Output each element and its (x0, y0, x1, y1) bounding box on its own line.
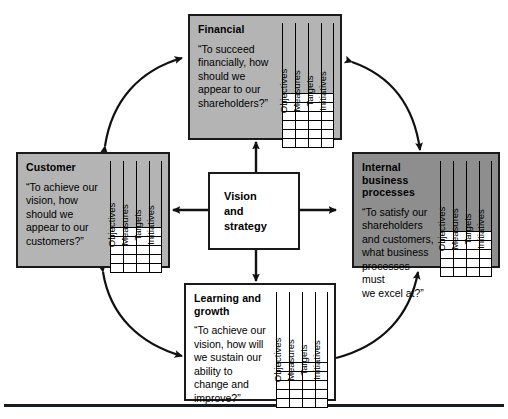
grid-cell[interactable] (283, 112, 295, 121)
grid-column-header-label: Objectives (278, 69, 289, 113)
grid-column-header-initiatives: Initiatives (316, 292, 327, 363)
grid-cell[interactable] (277, 390, 289, 399)
internal-processes-question: “To satisfy our shareholders and custome… (362, 206, 434, 301)
financial-text-column: Financial “To succeed financially, how s… (198, 23, 276, 132)
vision-and-strategy-box: Vision and strategy (208, 172, 300, 250)
learning-growth-text-column: Learning and growth “To achieve our visi… (194, 292, 270, 393)
grid-cell[interactable] (277, 399, 289, 408)
grid-cell[interactable] (309, 139, 321, 148)
grid-cell[interactable] (283, 121, 295, 130)
financial-question: “To succeed financially, how should we a… (198, 43, 276, 111)
grid-column-header-label: Measures (285, 339, 296, 381)
grid-cell[interactable] (322, 139, 333, 148)
grid-column-header-initiatives: Initiatives (480, 161, 491, 232)
grid-column-header-label: Measures (291, 70, 302, 112)
grid-column-header-label: Targets (298, 344, 309, 375)
grid-cell[interactable] (150, 264, 161, 273)
grid-cell[interactable] (309, 112, 321, 121)
arc-financial-internal-processes (352, 62, 420, 150)
customer-text-column: Customer “To achieve our vision, how sho… (26, 161, 104, 260)
perspective-box-learning-and-growth: Learning and growth “To achieve our visi… (184, 283, 336, 401)
customer-title: Customer (26, 161, 104, 174)
grid-cell[interactable] (303, 399, 315, 408)
grid-cell[interactable] (283, 139, 295, 148)
grid-cell[interactable] (316, 381, 327, 390)
grid-cell[interactable] (150, 255, 161, 264)
grid-cell[interactable] (296, 121, 308, 130)
perspective-box-customer: Customer “To achieve our vision, how sho… (16, 152, 170, 268)
grid-column-initiatives: Initiatives (321, 23, 334, 148)
grid-cell[interactable] (283, 130, 295, 139)
grid-cell[interactable] (111, 264, 123, 273)
grid-cell[interactable] (454, 268, 466, 277)
grid-cell[interactable] (303, 381, 315, 390)
grid-cell[interactable] (467, 268, 479, 277)
grid-cell[interactable] (467, 250, 479, 259)
balanced-scorecard-diagram: Financial “To succeed financially, how s… (0, 0, 508, 419)
grid-cell[interactable] (277, 381, 289, 390)
grid-cell[interactable] (137, 255, 149, 264)
grid-column-header-label: Initiatives (317, 71, 328, 111)
grid-cell[interactable] (322, 121, 333, 130)
grid-cell[interactable] (441, 250, 453, 259)
perspective-box-financial: Financial “To succeed financially, how s… (188, 14, 342, 140)
grid-column-header-label: Objectives (436, 207, 447, 251)
grid-cell[interactable] (137, 246, 149, 255)
grid-cell[interactable] (480, 268, 491, 277)
grid-cell[interactable] (467, 259, 479, 268)
grid-column-header-initiatives: Initiatives (322, 23, 333, 94)
grid-column-header-label: Targets (304, 75, 315, 106)
grid-cell[interactable] (124, 264, 136, 273)
grid-cell[interactable] (309, 121, 321, 130)
grid-cell[interactable] (316, 399, 327, 408)
grid-column-header-label: Targets (132, 209, 143, 240)
grid-column-initiatives: Initiatives (149, 161, 162, 273)
grid-column-initiatives: Initiatives (315, 292, 328, 408)
arc-customer-financial (105, 58, 182, 146)
learning-growth-question: “To achieve our vision, how will we sust… (194, 324, 270, 405)
grid-cell[interactable] (296, 139, 308, 148)
grid-cell[interactable] (111, 246, 123, 255)
grid-cell[interactable] (322, 130, 333, 139)
grid-cell[interactable] (296, 112, 308, 121)
grid-column-header-label: Objectives (106, 203, 117, 247)
grid-cell[interactable] (454, 259, 466, 268)
grid-column-header-label: Objectives (272, 338, 283, 382)
grid-cell[interactable] (150, 246, 161, 255)
internal-processes-text-column: Internal business processes “To satisfy … (362, 161, 434, 260)
grid-cell[interactable] (290, 399, 302, 408)
grid-column-header-label: Targets (462, 213, 473, 244)
internal-processes-title: Internal business processes (362, 161, 434, 199)
grid-cell[interactable] (290, 381, 302, 390)
grid-cell[interactable] (303, 390, 315, 399)
grid-column-header-label: Initiatives (145, 205, 156, 245)
financial-title: Financial (198, 23, 276, 36)
grid-cell[interactable] (290, 390, 302, 399)
grid-cell[interactable] (480, 250, 491, 259)
internal-processes-scorecard-grid: ObjectivesMeasuresTargetsInitiatives (440, 161, 492, 277)
grid-cell[interactable] (480, 259, 491, 268)
grid-cell[interactable] (124, 246, 136, 255)
learning-growth-title: Learning and growth (194, 292, 270, 317)
grid-cell[interactable] (316, 390, 327, 399)
grid-column-header-label: Initiatives (311, 340, 322, 380)
financial-scorecard-grid: ObjectivesMeasuresTargetsInitiatives (282, 23, 334, 148)
vision-and-strategy-label: Vision and strategy (224, 189, 267, 234)
customer-question: “To achieve our vision, how should we ap… (26, 181, 104, 249)
grid-cell[interactable] (124, 255, 136, 264)
grid-column-initiatives: Initiatives (479, 161, 492, 277)
grid-cell[interactable] (309, 130, 321, 139)
grid-column-header-initiatives: Initiatives (150, 161, 161, 228)
grid-cell[interactable] (111, 255, 123, 264)
grid-column-header-label: Measures (449, 208, 460, 250)
arc-customer-learning-growth (103, 272, 182, 356)
grid-cell[interactable] (441, 268, 453, 277)
learning-growth-scorecard-grid: ObjectivesMeasuresTargetsInitiatives (276, 292, 328, 408)
grid-cell[interactable] (441, 259, 453, 268)
grid-cell[interactable] (322, 112, 333, 121)
grid-cell[interactable] (296, 130, 308, 139)
perspective-box-internal-business-processes: Internal business processes “To satisfy … (352, 152, 500, 268)
grid-cell[interactable] (137, 264, 149, 273)
customer-scorecard-grid: ObjectivesMeasuresTargetsInitiatives (110, 161, 162, 273)
grid-cell[interactable] (454, 250, 466, 259)
